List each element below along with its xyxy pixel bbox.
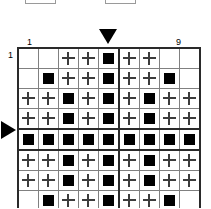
grid-cell-5-3[interactable]: [59, 129, 79, 150]
grid-cell-4-3[interactable]: [59, 109, 79, 130]
grid-cell-7-5[interactable]: [99, 171, 120, 191]
grid-cell-3-9[interactable]: [180, 89, 201, 109]
plus-mark-icon: [82, 154, 95, 167]
filled-square-icon: [103, 93, 114, 104]
grid-cell-3-5[interactable]: [99, 89, 120, 109]
grid-cell-1-4[interactable]: [79, 48, 99, 69]
grid-cell-4-2[interactable]: [39, 109, 59, 130]
grid-cell-8-6[interactable]: [119, 191, 140, 209]
grid-cell-6-3[interactable]: [59, 150, 79, 171]
grid-cell-3-8[interactable]: [160, 89, 180, 109]
grid-cell-2-6[interactable]: [119, 69, 140, 89]
empty-cell-marker: [184, 73, 195, 84]
grid-cell-8-9[interactable]: [180, 191, 201, 209]
plus-mark-icon: [123, 92, 136, 105]
filled-square-icon: [144, 134, 155, 145]
grid-cell-2-9[interactable]: [180, 69, 201, 89]
grid-cell-6-5[interactable]: [99, 150, 120, 171]
empty-cell-marker: [184, 53, 195, 64]
filled-square-icon: [144, 175, 155, 186]
grid-cell-6-1[interactable]: [18, 150, 39, 171]
grid-cell-3-4[interactable]: [79, 89, 99, 109]
filled-square-icon: [63, 155, 74, 166]
grid-cell-7-7[interactable]: [140, 171, 160, 191]
grid-cell-1-6[interactable]: [119, 48, 140, 69]
grid-cell-4-4[interactable]: [79, 109, 99, 130]
filled-square-icon: [164, 73, 175, 84]
grid-cell-4-9[interactable]: [180, 109, 201, 130]
plus-mark-icon: [42, 154, 55, 167]
grid-cell-1-1[interactable]: [18, 48, 39, 69]
grid-cell-7-4[interactable]: [79, 171, 99, 191]
grid-cell-7-9[interactable]: [180, 171, 201, 191]
grid-cell-1-7[interactable]: [140, 48, 160, 69]
grid-cell-2-5[interactable]: [99, 69, 120, 89]
grid-cell-4-6[interactable]: [119, 109, 140, 130]
grid-cell-2-4[interactable]: [79, 69, 99, 89]
filled-square-icon: [124, 134, 135, 145]
grid-cell-7-2[interactable]: [39, 171, 59, 191]
grid-cell-1-3[interactable]: [59, 48, 79, 69]
grid-cell-1-8[interactable]: [160, 48, 180, 69]
grid-cell-3-6[interactable]: [119, 89, 140, 109]
grid-cell-1-2[interactable]: [39, 48, 59, 69]
column-label-first: 1: [27, 38, 32, 47]
plus-mark-icon: [62, 72, 75, 85]
grid-cell-4-7[interactable]: [140, 109, 160, 130]
grid-cell-5-5[interactable]: [99, 129, 120, 150]
grid-cell-3-2[interactable]: [39, 89, 59, 109]
plus-mark-icon: [163, 112, 176, 125]
grid-cell-3-3[interactable]: [59, 89, 79, 109]
grid-cell-6-7[interactable]: [140, 150, 160, 171]
top-widget-left[interactable]: [25, 0, 56, 4]
grid-cell-1-9[interactable]: [180, 48, 201, 69]
grid-cell-5-6[interactable]: [119, 129, 140, 150]
filled-square-icon: [63, 134, 74, 145]
grid-cell-4-8[interactable]: [160, 109, 180, 130]
grid-cell-8-5[interactable]: [99, 191, 120, 209]
grid-cell-7-6[interactable]: [119, 171, 140, 191]
grid-cell-4-5[interactable]: [99, 109, 120, 130]
grid-cell-5-1[interactable]: [18, 129, 39, 150]
grid-cell-6-2[interactable]: [39, 150, 59, 171]
grid-cell-6-4[interactable]: [79, 150, 99, 171]
grid-cell-3-1[interactable]: [18, 89, 39, 109]
filled-square-icon: [164, 195, 175, 206]
plus-mark-icon: [82, 92, 95, 105]
grid-cell-7-8[interactable]: [160, 171, 180, 191]
grid-cell-3-7[interactable]: [140, 89, 160, 109]
triangle-right-icon: [1, 121, 16, 139]
grid-cell-8-8[interactable]: [160, 191, 180, 209]
grid-cell-5-9[interactable]: [180, 129, 201, 150]
filled-square-icon: [83, 134, 94, 145]
puzzle-grid[interactable]: [17, 47, 201, 208]
grid-cell-6-6[interactable]: [119, 150, 140, 171]
grid-cell-8-7[interactable]: [140, 191, 160, 209]
top-widget-right[interactable]: [105, 0, 136, 4]
grid-cell-4-1[interactable]: [18, 109, 39, 130]
row-label-first: 1: [8, 51, 13, 60]
filled-square-icon: [103, 195, 114, 206]
grid-cell-5-8[interactable]: [160, 129, 180, 150]
grid-cell-8-2[interactable]: [39, 191, 59, 209]
grid-cell-5-7[interactable]: [140, 129, 160, 150]
plus-mark-icon: [22, 112, 35, 125]
grid-cell-8-3[interactable]: [59, 191, 79, 209]
plus-mark-icon: [123, 154, 136, 167]
grid-cell-8-4[interactable]: [79, 191, 99, 209]
plus-mark-icon: [82, 52, 95, 65]
grid-cell-5-4[interactable]: [79, 129, 99, 150]
grid-cell-7-3[interactable]: [59, 171, 79, 191]
grid-cell-6-8[interactable]: [160, 150, 180, 171]
grid-cell-7-1[interactable]: [18, 171, 39, 191]
grid-cell-2-2[interactable]: [39, 69, 59, 89]
grid-cell-2-3[interactable]: [59, 69, 79, 89]
grid-cell-8-1[interactable]: [18, 191, 39, 209]
grid-cell-5-2[interactable]: [39, 129, 59, 150]
grid-cell-6-9[interactable]: [180, 150, 201, 171]
grid-cell-2-7[interactable]: [140, 69, 160, 89]
grid-row: [18, 191, 200, 209]
grid-cell-2-8[interactable]: [160, 69, 180, 89]
grid-cell-2-1[interactable]: [18, 69, 39, 89]
grid-cell-1-5[interactable]: [99, 48, 120, 69]
